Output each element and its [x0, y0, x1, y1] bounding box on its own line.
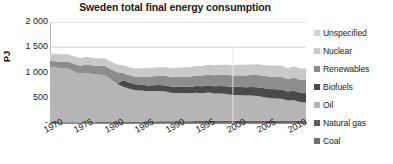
- legend-item-label: Coal: [323, 136, 340, 146]
- legend-item-label: Natural gas: [323, 118, 366, 128]
- legend-item-label: Renewables: [323, 64, 369, 74]
- legend-swatch-icon: [314, 66, 320, 72]
- legend-item-unspecified[interactable]: Unspecified: [314, 24, 393, 42]
- legend-item-label: Unspecified: [323, 28, 367, 38]
- legend-swatch-icon: [314, 138, 320, 144]
- legend-item-natural-gas[interactable]: Natural gas: [314, 114, 393, 132]
- legend-swatch-icon: [314, 48, 320, 54]
- plot-area: [50, 22, 306, 123]
- legend-item-coal[interactable]: Coal: [314, 132, 393, 150]
- x-axis-ticks: 197019751980198519901995200020052010: [50, 124, 306, 164]
- legend-item-biofuels[interactable]: Biofuels: [314, 78, 393, 96]
- y-tick-label: 1 000: [2, 67, 48, 77]
- legend-item-label: Biofuels: [323, 82, 353, 92]
- legend-item-label: Nuclear: [323, 46, 352, 56]
- chart-title: Sweden total final energy consumption: [40, 1, 310, 13]
- y-tick-label: 2 000: [2, 16, 48, 26]
- legend-item-label: Oil: [323, 100, 333, 110]
- chart-legend: UnspecifiedNuclearRenewablesBiofuelsOilN…: [314, 24, 393, 150]
- legend-swatch-icon: [314, 30, 320, 36]
- legend-item-renewables[interactable]: Renewables: [314, 60, 393, 78]
- legend-swatch-icon: [314, 84, 320, 90]
- legend-swatch-icon: [314, 120, 320, 126]
- y-tick-label: 1 500: [2, 41, 48, 51]
- legend-swatch-icon: [314, 102, 320, 108]
- legend-item-oil[interactable]: Oil: [314, 96, 393, 114]
- legend-item-nuclear[interactable]: Nuclear: [314, 42, 393, 60]
- y-tick-label: 500: [2, 92, 48, 102]
- chart-container: Sweden total final energy consumption PJ…: [0, 0, 393, 164]
- stacked-area-svg: [50, 22, 306, 123]
- y-axis-ticks: 2 0001 5001 000500-: [0, 22, 48, 123]
